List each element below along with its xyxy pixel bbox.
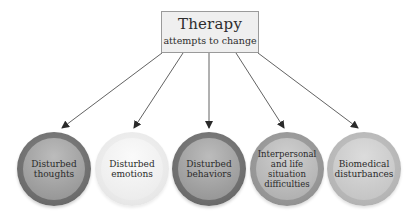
node-disturbed-thoughts: Disturbed thoughts — [17, 132, 91, 206]
arrow-to-interpersonal — [236, 53, 284, 128]
arrow-to-thoughts — [62, 53, 162, 128]
node-label: Interpersonal and life situation difficu… — [256, 149, 319, 189]
node-interpersonal-difficulties: Interpersonal and life situation difficu… — [250, 132, 324, 206]
node-inner: Disturbed emotions — [101, 138, 163, 200]
root-subtitle: attempts to change — [162, 34, 258, 47]
node-inner: Disturbed thoughts — [23, 138, 85, 200]
node-disturbed-behaviors: Disturbed behaviors — [172, 132, 246, 206]
node-inner: Interpersonal and life situation difficu… — [256, 138, 318, 200]
node-disturbed-emotions: Disturbed emotions — [95, 132, 169, 206]
node-label: Disturbed thoughts — [23, 159, 85, 180]
node-biomedical-disturbances: Biomedical disturbances — [327, 132, 401, 206]
therapy-root-box: Therapy attempts to change — [161, 11, 259, 53]
arrow-to-emotions — [134, 53, 183, 128]
node-label: Biomedical disturbances — [333, 159, 396, 180]
root-title: Therapy — [162, 16, 258, 33]
arrow-to-biomedical — [258, 53, 358, 128]
node-inner: Biomedical disturbances — [333, 138, 395, 200]
node-label: Disturbed emotions — [101, 159, 163, 180]
node-label: Disturbed behaviors — [178, 159, 240, 180]
node-inner: Disturbed behaviors — [178, 138, 240, 200]
